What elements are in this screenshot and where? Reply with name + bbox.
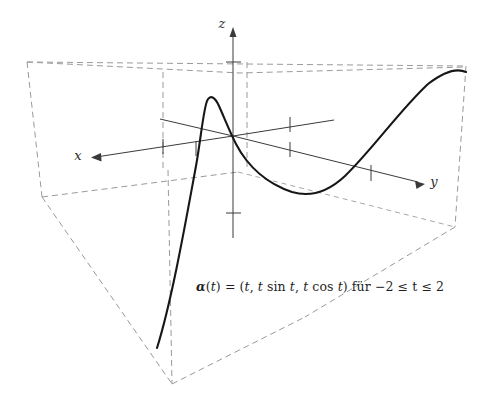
- z-axis-label: z: [218, 16, 226, 31]
- x-axis-arrowhead: [91, 153, 102, 162]
- figure-root: x y z α(t) = (t, t sin t, t cos t) für −…: [0, 0, 496, 415]
- parameter-range: −2 ≤ t ≤ 2: [375, 279, 444, 294]
- box-edge-bottom-right: [305, 227, 455, 317]
- cos-label: cos: [308, 279, 337, 294]
- curve-plot-svg: x y z: [0, 0, 496, 415]
- comma-1: ,: [250, 279, 258, 294]
- equals-open: ) = (: [216, 279, 245, 294]
- sin-label: sin: [263, 279, 290, 294]
- space-curve-group: [157, 70, 466, 348]
- alpha-curve-path: [157, 70, 466, 348]
- x-axis-label: x: [74, 148, 82, 163]
- axes-group: x y z: [74, 16, 438, 238]
- z-axis-arrowhead: [230, 27, 237, 37]
- y-axis-negative-extension: [160, 119, 233, 136]
- box-edge-left-lower: [42, 197, 172, 384]
- box-edge-mid-right: [238, 172, 455, 227]
- y-axis-label: y: [429, 174, 438, 189]
- box-edge-mid-left: [42, 172, 238, 197]
- alpha-symbol: α: [196, 279, 206, 294]
- y-axis-arrowhead: [415, 181, 425, 189]
- box-edge-bottom-left-diag: [172, 317, 305, 384]
- comma-2: ,: [295, 279, 303, 294]
- curve-equation-caption: α(t) = (t, t sin t, t cos t) für −2 ≤ t …: [196, 279, 444, 294]
- box-edge-left-vertical: [27, 62, 42, 197]
- x-axis-line: [96, 136, 233, 157]
- bounding-box-guides: [27, 62, 466, 384]
- x-axis-negative-extension: [233, 120, 334, 136]
- box-edge-interior-pillar-long: [168, 170, 172, 384]
- fuer-label: für: [348, 279, 375, 294]
- box-edge-right-vertical: [455, 66, 466, 227]
